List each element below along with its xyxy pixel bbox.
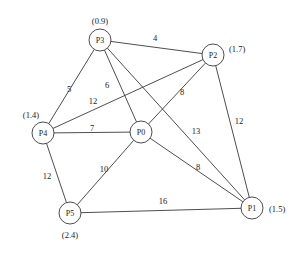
- edge-weight-label: 12: [89, 96, 98, 106]
- graph-edge-p2-p1: [216, 66, 250, 198]
- node-label: P4: [39, 129, 47, 138]
- node-label: P5: [66, 209, 74, 218]
- node-annotation-p3: (0.9): [92, 16, 108, 26]
- node-label: P2: [209, 51, 217, 60]
- edge-weight-label: 5: [67, 84, 71, 94]
- nodes-layer: P0P1P2P3P4P5: [32, 29, 263, 224]
- edge-weight-label: 4: [153, 33, 158, 43]
- graph-node-p1[interactable]: P1: [241, 197, 263, 219]
- edge-weight-label: 16: [159, 196, 168, 206]
- edge-weight-label: 6: [105, 80, 109, 90]
- graph-edge-p2-p0: [149, 63, 206, 124]
- edge-weight-label: 13: [192, 126, 201, 136]
- graph-edge-p5-p1: [81, 208, 241, 212]
- edge-weight-label: 7: [90, 123, 94, 133]
- graph-node-p5[interactable]: P5: [59, 202, 81, 224]
- edge-weight-label: 8: [180, 87, 184, 97]
- node-annotation-p1: (1.5): [269, 204, 285, 214]
- edge-weight-label: 8: [196, 162, 200, 172]
- edge-weight-label: 10: [100, 164, 109, 174]
- graph-node-p4[interactable]: P4: [32, 122, 54, 144]
- graph-svg: 456131281271210816 P0P1P2P3P4P5 (1.5)(1.…: [0, 0, 304, 254]
- graph-node-p2[interactable]: P2: [202, 44, 224, 66]
- graph-edge-p3-p2: [111, 41, 202, 53]
- node-annotation-p2: (1.7): [229, 44, 245, 54]
- edge-weight-label: 12: [43, 171, 52, 181]
- edge-weight-label: 12: [235, 116, 244, 126]
- node-annotation-p4: (1.4): [23, 110, 39, 120]
- node-label: P0: [137, 128, 145, 137]
- node-annotation-p5: (2.4): [62, 230, 78, 240]
- graph-diagram-canvas: 456131281271210816 P0P1P2P3P4P5 (1.5)(1.…: [0, 0, 304, 254]
- node-label: P3: [96, 36, 104, 45]
- node-label: P1: [248, 204, 256, 213]
- graph-node-p0[interactable]: P0: [130, 121, 152, 143]
- graph-node-p3[interactable]: P3: [89, 29, 111, 51]
- graph-edge-p3-p0: [104, 50, 136, 122]
- graph-edge-p3-p1: [107, 48, 244, 200]
